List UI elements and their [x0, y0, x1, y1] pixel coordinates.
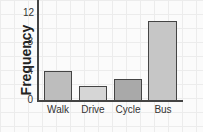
y-tick-12: 12 — [23, 7, 33, 18]
y-axis-label: Frequency — [18, 20, 34, 100]
x-tick-walk: Walk — [40, 104, 76, 115]
y-axis — [37, 0, 39, 101]
y-tick-8: 8 — [23, 36, 33, 47]
bar-drive — [79, 86, 107, 101]
y-tick-4: 4 — [23, 65, 33, 76]
bar-walk — [44, 71, 72, 101]
x-tick-bus: Bus — [145, 104, 181, 115]
x-tick-cycle: Cycle — [110, 104, 146, 115]
x-axis — [37, 100, 183, 102]
bar-bus — [148, 21, 177, 101]
y-tick-0: 0 — [23, 94, 33, 105]
bar-cycle — [114, 79, 142, 101]
x-tick-drive: Drive — [75, 104, 111, 115]
